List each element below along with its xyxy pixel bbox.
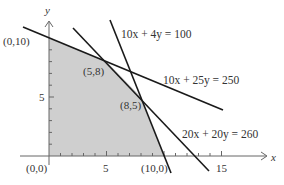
x-axis-label: x	[271, 152, 276, 163]
constraint-label-10x-4y-100: 10x + 4y = 100	[121, 29, 191, 41]
vertex-label-8-5: (8,5)	[120, 100, 141, 111]
feasible-region	[49, 38, 164, 156]
vertex-label-0-10: (0,10)	[3, 36, 30, 47]
vertex-label-0-0: (0,0)	[26, 163, 47, 174]
y-axis-label: y	[45, 5, 50, 16]
x-tick-label-15: 15	[216, 163, 227, 174]
constraint-label-20x-20y-260: 20x + 20y = 260	[182, 129, 258, 141]
constraint-label-10x-25y-250: 10x + 25y = 250	[163, 75, 239, 87]
x-tick-label-5: 5	[103, 163, 109, 174]
vertex-label-10-0: (10,0)	[141, 163, 168, 174]
vertex-label-5-8: (5,8)	[83, 66, 104, 77]
y-tick-label-5: 5	[39, 92, 45, 103]
